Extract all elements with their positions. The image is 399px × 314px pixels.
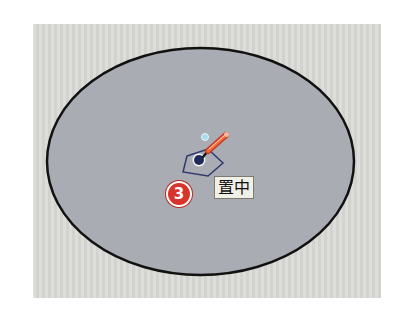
inference-point-icon	[202, 134, 209, 141]
center-tooltip: 置中	[214, 176, 254, 199]
scene	[0, 0, 399, 314]
step-badge: 3	[166, 181, 192, 207]
